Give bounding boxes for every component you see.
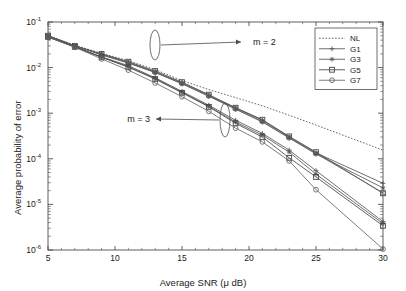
x-tick-label: 20 [244, 253, 254, 263]
annotation-arrow-head [236, 40, 241, 45]
legend-label-g1: G1 [350, 45, 361, 54]
y-tick-label: 10-4 [26, 153, 41, 164]
y-tick-label: 10-1 [26, 16, 41, 27]
annotation-label: m = 3 [127, 114, 150, 124]
y-tick-label: 10-6 [26, 244, 41, 255]
y-axis-label: Average probability of error [12, 101, 23, 215]
y-tick-exponent: -1 [36, 16, 42, 22]
y-tick-label: 10-2 [26, 62, 41, 73]
legend-label-g7: G7 [350, 76, 361, 85]
y-tick-exponent: -5 [36, 198, 42, 204]
annotation-ellipse [220, 103, 230, 137]
y-tick-exponent: -6 [36, 244, 42, 250]
x-tick-label: 25 [311, 253, 321, 263]
legend: NLG1G3G5G7 [315, 28, 377, 90]
x-axis-label: Average SNR (μ dB) [0, 277, 406, 288]
annotation-arrow-line [161, 42, 241, 45]
y-tick-exponent: -4 [36, 153, 42, 159]
y-tick-exponent: -3 [36, 107, 42, 113]
annotation-ellipse [150, 30, 160, 60]
x-tick-label: 30 [378, 253, 388, 263]
legend-label-nl: NL [350, 34, 361, 43]
annotation-arrow-head [156, 117, 161, 122]
legend-label-g5: G5 [350, 66, 361, 75]
legend-label-g3: G3 [350, 55, 361, 64]
y-tick-label: 10-3 [26, 107, 41, 118]
annotation-label: m = 2 [253, 37, 276, 47]
chart-svg: 5101520253010-610-510-410-310-210-1m = 2… [0, 0, 406, 291]
y-tick-label: 10-5 [26, 198, 41, 209]
figure-container: 5101520253010-610-510-410-310-210-1m = 2… [0, 0, 406, 291]
y-tick-exponent: -2 [36, 62, 42, 68]
annotation-arrow-line [156, 119, 219, 120]
annotation-m2: m = 2 [150, 30, 276, 60]
x-tick-label: 15 [177, 253, 187, 263]
x-tick-label: 10 [110, 253, 120, 263]
x-tick-label: 5 [46, 253, 51, 263]
